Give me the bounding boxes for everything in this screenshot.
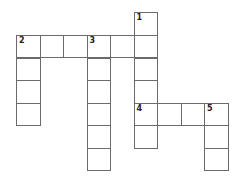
crossword-cell[interactable] [16,58,41,82]
crossword-cell[interactable] [134,125,159,149]
crossword-cell[interactable] [204,125,229,149]
clue-number: 2 [19,37,25,45]
crossword-cell[interactable] [87,148,112,172]
crossword-cell[interactable] [16,80,41,104]
clue-number: 1 [137,14,143,22]
crossword-cell[interactable]: 5 [204,103,229,127]
crossword-cell[interactable]: 4 [134,103,159,127]
crossword-cell[interactable] [134,35,159,59]
clue-number: 4 [137,105,143,113]
crossword-grid: 14235 [0,0,244,184]
crossword-cell[interactable] [87,80,112,104]
clue-number: 3 [90,37,96,45]
crossword-cell[interactable] [87,125,112,149]
crossword-cell[interactable] [40,35,65,59]
crossword-cell[interactable]: 2 [16,35,41,59]
crossword-cell[interactable]: 3 [87,35,112,59]
clue-number: 5 [207,105,213,113]
crossword-cell[interactable] [157,103,182,127]
crossword-cell[interactable]: 1 [134,12,159,36]
crossword-cell[interactable] [63,35,88,59]
crossword-cell[interactable] [134,58,159,82]
crossword-cell[interactable] [134,80,159,104]
crossword-cell[interactable] [87,103,112,127]
crossword-cell[interactable] [87,58,112,82]
crossword-cell[interactable] [16,103,41,127]
crossword-cell[interactable] [110,35,135,59]
crossword-cell[interactable] [204,148,229,172]
crossword-cell[interactable] [181,103,206,127]
